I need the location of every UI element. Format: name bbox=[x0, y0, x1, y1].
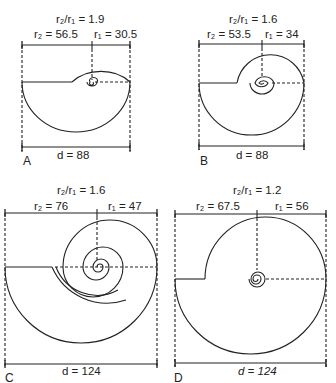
panel-c-r2-label: r₂ = 76 bbox=[34, 201, 68, 213]
panel-a-ratio-label: r₂/r₁ = 1.9 bbox=[56, 14, 104, 26]
panel-b-diagram bbox=[199, 40, 304, 150]
panel-a-letter: A bbox=[23, 155, 31, 167]
panel-b-letter: B bbox=[200, 155, 208, 167]
panel-a-r1-label: r₁ = 30.5 bbox=[94, 29, 137, 41]
panel-a-diagram bbox=[22, 41, 130, 152]
panel-b-d-label: d = 88 bbox=[236, 150, 268, 162]
panel-a-r2-label: r₂ = 56.5 bbox=[34, 29, 78, 41]
panel-c-d-label: d = 124 bbox=[62, 366, 101, 378]
panel-d-diagram bbox=[175, 210, 326, 368]
panel-d-r1-label: r₁ = 56 bbox=[275, 201, 309, 213]
panel-c-ratio-label: r₂/r₁ = 1.6 bbox=[57, 185, 105, 197]
panel-b-r2-label: r₂ = 53.5 bbox=[207, 29, 251, 41]
spiral-diagrams bbox=[0, 0, 336, 383]
panel-c-diagram bbox=[5, 209, 157, 368]
panel-d-ratio-label: r₂/r₁ = 1.2 bbox=[233, 185, 281, 197]
panel-d-d-label: d = 124 bbox=[238, 366, 277, 378]
panel-b-r1-label: r₁ = 34 bbox=[265, 29, 299, 41]
panel-c-r1-label: r₁ = 47 bbox=[108, 201, 142, 213]
panel-c-letter: C bbox=[5, 372, 14, 383]
panel-b-ratio-label: r₂/r₁ = 1.6 bbox=[229, 14, 277, 26]
panel-d-letter: D bbox=[174, 372, 183, 383]
panel-a-d-label: d = 88 bbox=[57, 150, 89, 162]
panel-d-r2-label: r₂ = 67.5 bbox=[196, 201, 240, 213]
